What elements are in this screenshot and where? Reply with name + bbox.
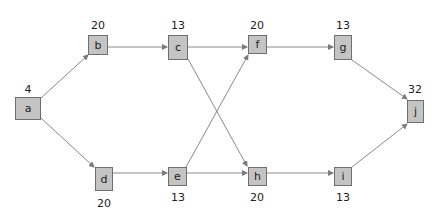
edge-a-b — [41, 55, 88, 98]
node-value-a: 4 — [13, 84, 43, 96]
network-diagram: a4b20c13d20e13f20g13h20i13j32 — [0, 0, 437, 221]
edge-i-j — [352, 124, 407, 167]
edge-layer — [0, 0, 437, 221]
node-a: a — [15, 97, 41, 120]
node-label: h — [254, 170, 261, 183]
node-g: g — [334, 35, 352, 60]
edge-a-d — [41, 118, 94, 167]
node-label: i — [341, 170, 344, 183]
node-b: b — [88, 35, 108, 55]
node-label: a — [25, 102, 32, 115]
node-value-j: 32 — [400, 84, 430, 96]
node-label: j — [414, 105, 417, 118]
node-h: h — [248, 167, 267, 186]
node-i: i — [334, 167, 352, 186]
node-value-g: 13 — [328, 20, 358, 32]
node-j: j — [407, 100, 424, 123]
node-d: d — [95, 167, 113, 191]
node-c: c — [168, 35, 188, 60]
node-label: f — [256, 38, 260, 51]
node-value-f: 20 — [242, 20, 272, 32]
node-value-b: 20 — [83, 20, 113, 32]
node-value-c: 13 — [163, 20, 193, 32]
node-label: c — [175, 41, 181, 54]
node-label: d — [101, 173, 108, 186]
node-label: g — [340, 41, 347, 54]
node-value-d: 20 — [89, 198, 119, 210]
node-label: e — [174, 170, 181, 183]
node-value-h: 20 — [242, 192, 272, 204]
node-f: f — [248, 35, 267, 54]
node-value-e: 13 — [163, 192, 193, 204]
edge-c-h — [188, 59, 247, 166]
node-value-i: 13 — [328, 192, 358, 204]
node-e: e — [168, 167, 187, 186]
node-label: b — [95, 39, 102, 52]
edge-g-j — [352, 60, 407, 99]
